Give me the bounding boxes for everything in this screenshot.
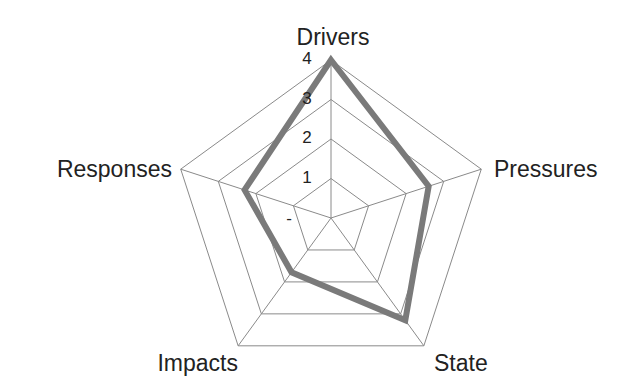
tick-label-2: 2 <box>302 128 311 147</box>
axis-label-responses: Responses <box>57 156 172 182</box>
radial-tick-labels: -1234 <box>286 49 312 228</box>
tick-label-1: 1 <box>302 168 311 187</box>
tick-label-3: 3 <box>302 89 311 108</box>
radar-chart-canvas: -1234 DriversPressuresStateImpactsRespon… <box>0 0 633 389</box>
tick-label-zero: - <box>286 209 292 228</box>
axis-label-state: State <box>434 350 488 376</box>
axis-label-drivers: Drivers <box>297 24 370 50</box>
tick-label-4: 4 <box>302 49 311 68</box>
spoke-pressures <box>331 169 481 218</box>
axis-label-pressures: Pressures <box>494 156 598 182</box>
axis-labels: DriversPressuresStateImpactsResponses <box>57 24 598 376</box>
axis-label-impacts: Impacts <box>157 350 238 376</box>
radar-chart: -1234 DriversPressuresStateImpactsRespon… <box>0 0 633 389</box>
